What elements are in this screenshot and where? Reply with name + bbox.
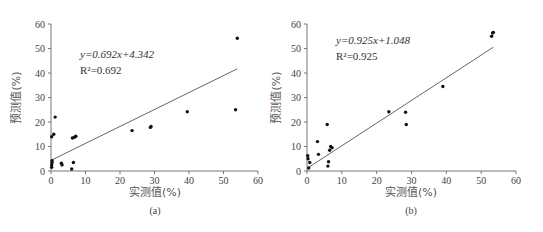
- regression-equation: y=0.925x+1.048: [335, 34, 411, 46]
- x-tick-label: 20: [115, 175, 125, 186]
- data-point: [308, 161, 311, 164]
- data-point: [149, 125, 152, 128]
- data-point: [186, 110, 189, 113]
- data-point: [72, 161, 75, 164]
- regression-equation: y=0.692x+4.342: [79, 48, 155, 60]
- data-point: [234, 108, 237, 111]
- y-tick-label: 40: [35, 68, 45, 79]
- y-tick-label: 0: [296, 166, 301, 177]
- x-tick-label: 30: [150, 175, 160, 186]
- data-point: [306, 157, 309, 160]
- data-point: [307, 166, 310, 169]
- y-tick-label: 30: [291, 92, 301, 103]
- data-point: [328, 148, 331, 151]
- y-tick-label: 60: [291, 19, 301, 30]
- x-tick-label: 50: [219, 175, 229, 186]
- data-point: [492, 31, 495, 34]
- data-point: [490, 35, 493, 38]
- y-tick-label: 10: [35, 141, 45, 152]
- y-axis-label: 预测值(%): [270, 71, 283, 123]
- y-tick-label: 20: [291, 117, 301, 128]
- data-point: [70, 167, 73, 170]
- data-point: [327, 160, 330, 163]
- x-tick-label: 60: [511, 175, 521, 186]
- chart-canvas: 01020304050600102030405060y=0.692x+4.342…: [0, 0, 543, 232]
- y-tick-label: 50: [35, 43, 45, 54]
- y-tick-label: 60: [35, 19, 45, 30]
- x-tick-label: 40: [184, 175, 194, 186]
- scatter-panel-a: 01020304050600102030405060y=0.692x+4.342…: [10, 19, 263, 218]
- x-tick-label: 30: [407, 175, 417, 186]
- data-point: [306, 154, 309, 157]
- data-point: [236, 37, 239, 40]
- data-point: [52, 133, 55, 136]
- x-tick-label: 40: [441, 175, 451, 186]
- x-tick-label: 60: [253, 175, 263, 186]
- y-tick-label: 50: [291, 43, 301, 54]
- y-axis-label: 预测值(%): [10, 71, 23, 123]
- x-tick-label: 50: [476, 175, 486, 186]
- x-tick-label: 0: [49, 175, 54, 186]
- data-point: [317, 153, 320, 156]
- y-tick-label: 30: [35, 92, 45, 103]
- y-tick-label: 10: [291, 141, 301, 152]
- y-tick-label: 40: [291, 68, 301, 79]
- scatter-panel-b: 01020304050600102030405060y=0.925x+1.048…: [270, 19, 521, 218]
- data-point: [326, 123, 329, 126]
- x-tick-label: 20: [372, 175, 382, 186]
- y-tick-label: 0: [40, 166, 45, 177]
- data-point: [74, 135, 77, 138]
- x-tick-label: 10: [337, 175, 347, 186]
- data-point: [50, 161, 53, 164]
- data-point: [326, 164, 329, 167]
- data-point: [405, 123, 408, 126]
- r-squared: R²=0.925: [336, 50, 378, 62]
- data-point: [53, 115, 56, 118]
- x-axis-label: 实测值(%): [129, 185, 181, 199]
- panel-label: (b): [405, 205, 417, 217]
- data-point: [130, 129, 133, 132]
- regression-line: [307, 47, 493, 168]
- data-point: [404, 111, 407, 114]
- panel-label: (a): [149, 205, 160, 217]
- data-point: [441, 85, 444, 88]
- data-point: [387, 110, 390, 113]
- data-point: [60, 163, 63, 166]
- x-tick-label: 10: [81, 175, 91, 186]
- regression-line: [51, 69, 237, 161]
- data-point: [330, 146, 333, 149]
- data-point: [316, 140, 319, 143]
- y-tick-label: 20: [35, 117, 45, 128]
- x-axis-label: 实测值(%): [385, 185, 437, 199]
- r-squared: R²=0.692: [80, 64, 122, 76]
- x-tick-label: 0: [305, 175, 310, 186]
